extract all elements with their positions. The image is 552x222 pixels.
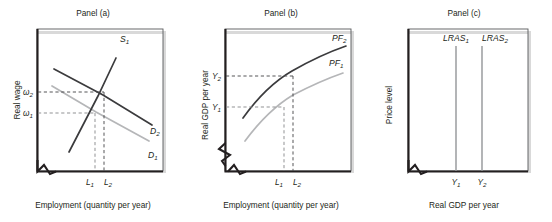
panel-b: Panel (b) Real GDP per year Employment (…	[186, 0, 372, 222]
panel-c-shadow-top	[409, 31, 531, 34]
panel-a-label-d1: D1	[148, 150, 158, 161]
panel-c-xtick-y2: Y2	[478, 177, 488, 188]
panel-c-xtick-y1: Y1	[452, 177, 461, 188]
panel-a-curve-s1	[69, 58, 116, 152]
panel-b-label-pf2: PF2	[332, 33, 347, 44]
panel-b-shadow-right	[351, 31, 354, 173]
panel-a-label-d1-sub: 1	[154, 154, 157, 161]
panel-c-label-lras2: LRAS2	[482, 33, 508, 44]
panel-b-title: Panel (b)	[264, 8, 298, 18]
panel-a-title: Panel (a)	[76, 8, 110, 18]
panel-a-ytick-omega2-sub: 2	[29, 91, 34, 98]
panel-c-label-lras1: LRAS1	[443, 33, 469, 44]
panel-a-xtick-l1: L1	[86, 177, 94, 188]
panel-b-curve-pf2	[243, 46, 346, 118]
economics-three-panel-figure: Panel (a) Real wage Employment (quantity…	[0, 0, 552, 222]
panel-b-x-axis-break-icon	[228, 165, 246, 174]
panel-a-plot-frame	[37, 29, 163, 171]
panel-a-y-axis-label: Real wage	[12, 80, 22, 120]
panel-c-plot-frame	[408, 29, 528, 171]
panel-c-shadow-right	[528, 31, 531, 173]
panel-a-xtick-l1-sub: 1	[91, 181, 94, 188]
panel-b-label-pf1: PF1	[329, 58, 343, 69]
panel-b-xtick-l1: L1	[275, 177, 283, 188]
panel-b-label-pf1-base: PF	[329, 58, 341, 68]
panel-b-xtick-l2-sub: 2	[297, 181, 302, 188]
panel-a-ytick-omega1: ω1	[23, 108, 33, 119]
panel-b-ytick-y2-sub: 2	[217, 75, 222, 82]
panel-b-xtick-l2: L2	[293, 177, 302, 188]
panel-c-chart: Panel (c) Price level Real GDP per year …	[372, 0, 552, 222]
panel-c-label-lras1-sub: 1	[466, 37, 469, 44]
panel-b-label-pf2-base: PF	[332, 33, 344, 43]
panel-c-y-axis-label: Price level	[384, 86, 394, 124]
panel-b-label-pf1-sub: 1	[340, 62, 343, 69]
panel-a-xtick-l2: L2	[104, 177, 113, 188]
panel-a-shadow-top	[38, 31, 166, 34]
panel-a: Panel (a) Real wage Employment (quantity…	[0, 0, 186, 222]
panel-c-label-lras1-base: LRAS	[443, 33, 466, 43]
panel-b-label-pf2-sub: 2	[342, 37, 347, 44]
panel-c-xtick-y1-sub: 1	[457, 181, 460, 188]
panel-a-ytick-omega2: ω2	[23, 87, 33, 98]
panel-c-label-lras2-base: LRAS	[482, 33, 505, 43]
panel-a-x-axis-label: Employment (quantity per year)	[35, 200, 151, 210]
panel-c-x-axis-label: Real GDP per year	[429, 200, 499, 210]
panel-a-axes	[38, 29, 164, 172]
panel-b-x-axis-label: Employment (quantity per year)	[223, 200, 339, 210]
panel-c: Panel (c) Price level Real GDP per year …	[372, 0, 552, 222]
panel-a-xtick-l2-sub: 2	[108, 181, 113, 188]
panel-c-title: Panel (c)	[447, 8, 480, 18]
panel-a-label-d2: D2	[150, 126, 160, 137]
panel-b-ytick-y1: Y1	[212, 102, 221, 113]
panel-b-ytick-y2: Y2	[212, 71, 222, 82]
panel-b-xtick-l1-sub: 1	[280, 181, 283, 188]
panel-a-chart: Panel (a) Real wage Employment (quantity…	[0, 0, 186, 222]
panel-b-ytick-y1-sub: 1	[218, 106, 221, 113]
panel-a-label-s1-sub: 1	[126, 38, 129, 45]
panel-b-chart: Panel (b) Real GDP per year Employment (…	[186, 0, 372, 222]
panel-c-axes	[409, 29, 529, 172]
panel-a-ytick-omega1-sub: 1	[30, 112, 33, 119]
panel-c-xtick-y2-sub: 2	[482, 181, 487, 188]
panel-b-y-axis-label: Real GDP per year	[200, 70, 210, 140]
panel-b-curve-pf1	[245, 73, 343, 141]
panel-a-label-d2-sub: 2	[155, 130, 160, 137]
panel-a-label-s1: S1	[120, 34, 129, 45]
panel-c-label-lras2-sub: 2	[504, 37, 509, 44]
panel-b-plot-frame	[225, 29, 351, 171]
